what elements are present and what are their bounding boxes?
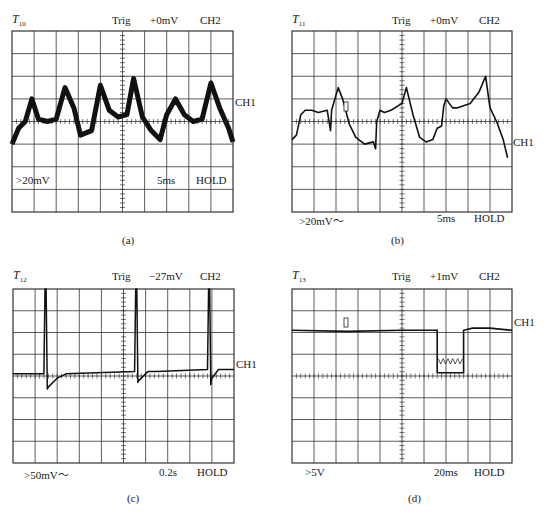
channel-marker: CH1 bbox=[514, 316, 535, 328]
volts-per-div: >5V bbox=[305, 466, 325, 478]
figure-caption: (d) bbox=[408, 492, 421, 504]
scope-panel-d: T13 Trig +1mV CH2 CH1 >5V 20ms HOLD (d) bbox=[0, 0, 545, 518]
time-per-div: 20ms bbox=[434, 466, 458, 478]
scope-screen bbox=[0, 0, 545, 518]
hold-mode: HOLD bbox=[474, 466, 505, 478]
cursor-marker-icon bbox=[344, 318, 348, 327]
graticule bbox=[292, 289, 512, 463]
ripple-trace bbox=[438, 359, 462, 364]
